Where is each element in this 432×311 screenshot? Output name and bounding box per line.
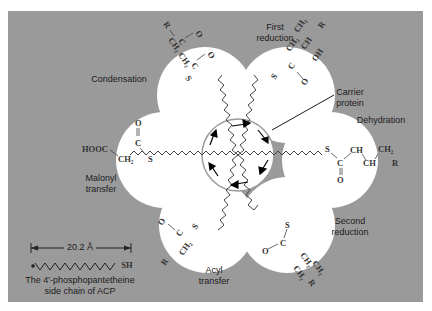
scale-caption-line1: The 4′-phosphopantetheine <box>15 275 145 286</box>
scale-caption-line2: side chain of ACP <box>15 286 145 297</box>
svg-text:CH₂: CH₂ <box>118 154 134 164</box>
acyl-transfer-label-line1: Acyl <box>194 265 234 276</box>
svg-text:S: S <box>285 220 290 230</box>
svg-text:O: O <box>262 246 269 256</box>
malonyl-transfer-label-line2: transfer <box>78 184 124 195</box>
second-reduction-label-line1: Second <box>325 216 375 227</box>
svg-text:HOOC: HOOC <box>82 144 108 154</box>
svg-text:S: S <box>325 144 330 154</box>
svg-text:CH₂: CH₂ <box>378 144 394 154</box>
svg-text:C: C <box>280 238 286 248</box>
scale-length-label: 20.2 Å <box>64 242 96 253</box>
carrier-protein-label-line1: Carrier <box>330 87 370 98</box>
first-reduction-label-line1: First <box>250 22 300 33</box>
svg-text:S: S <box>148 154 153 164</box>
condensation-label: Condensation <box>84 74 154 85</box>
svg-text:CH: CH <box>350 145 363 155</box>
svg-text:CH: CH <box>363 158 376 168</box>
sh-group-label: SH <box>117 260 137 271</box>
svg-text:C: C <box>135 138 141 148</box>
first-reduction-label-line2: reduction <box>250 33 300 44</box>
svg-text:R: R <box>392 158 399 168</box>
second-reduction-label-line2: reduction <box>322 227 378 238</box>
dehydration-label: Dehydration <box>348 115 414 126</box>
svg-text:O: O <box>337 175 344 185</box>
malonyl-transfer-label-line1: Malonyl <box>78 173 124 184</box>
svg-text:C: C <box>337 158 343 168</box>
carrier-protein-label-line2: protein <box>330 98 370 109</box>
fatty-acid-synthase-diagram: R CH₂ C O CH₂ C O S S C O CH₂ CH OH CH₂ … <box>0 0 432 311</box>
svg-text:O: O <box>135 118 142 128</box>
acyl-transfer-label-line2: transfer <box>190 276 238 287</box>
